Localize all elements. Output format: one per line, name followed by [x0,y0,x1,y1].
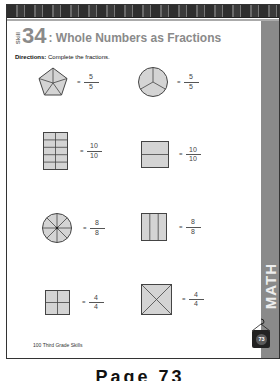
numerator: 10 [189,146,197,154]
skill-label: Skill [15,32,21,44]
numerator: 8 [95,219,99,227]
problem-item: = 4 4 [141,284,204,315]
denominator: 4 [94,303,98,311]
equals-sign: = [182,296,186,302]
square-quarters-shape-icon [45,290,70,315]
circle-thirds-shape-icon [137,66,169,98]
square-diagonals-shape-icon [141,284,172,315]
denominator: 8 [191,228,195,236]
fraction: = 5 5 [77,73,99,91]
equals-sign: = [77,79,81,85]
numerator: 5 [189,73,193,81]
fraction: = 4 4 [82,294,104,312]
book-title-footer: 100 Third Grade Skills [33,342,82,348]
page-number-badge: 73 [252,330,270,348]
page-number-hanger: 73 [250,318,276,354]
rectangle-thirds-shape-icon [141,213,167,241]
problem-item: = 5 5 [137,66,199,98]
equals-sign: = [82,299,86,305]
page-number: 73 [256,334,267,345]
problem-item: = 4 4 [45,290,104,315]
problem-item: = 10 10 [141,141,201,168]
numerator: 4 [194,291,198,299]
problem-item: = 8 8 [41,212,105,244]
fraction: = 10 10 [179,146,201,164]
numerator: 8 [191,218,195,226]
denominator: 5 [89,83,93,91]
denominator: 4 [194,300,198,308]
problem-item: = 8 8 [141,213,201,241]
denominator: 5 [189,83,193,91]
rectangle-halves-shape-icon [141,141,169,168]
fraction: = 4 4 [182,291,204,309]
numerator: 10 [90,142,98,150]
page-caption: Page 73 [0,367,280,381]
problem-item: = 10 10 [43,132,102,170]
problem-item: = 5 5 [37,66,99,98]
page-title: Skill 34 : Whole Numbers as Fractions [15,26,255,46]
top-band-divider [7,19,279,21]
problem-grid: = 5 5 = [15,60,255,320]
title-text: : Whole Numbers as Fractions [48,30,221,46]
skill-number: 34 [22,26,46,46]
equals-sign: = [179,151,183,157]
circle-eighths-shape-icon [41,212,73,244]
decorative-top-band [7,5,279,18]
fraction: = 10 10 [80,142,102,160]
denominator: 8 [95,229,99,237]
worksheet-content: Skill 34 : Whole Numbers as Fractions Di… [15,23,255,320]
fraction: = 5 5 [177,73,199,91]
numerator: 4 [94,294,98,302]
denominator: 10 [90,152,98,160]
fraction: = 8 8 [179,218,201,236]
equals-sign: = [83,225,87,231]
worksheet-page: MATH Skill 34 : Whole Numbers as Fractio… [6,4,280,359]
denominator: 10 [189,155,197,163]
equals-sign: = [177,79,181,85]
numerator: 5 [89,73,93,81]
rectangle-grid-shape-icon [43,132,68,170]
pentagon-shape-icon [37,66,69,98]
equals-sign: = [80,148,84,154]
side-tab-label: MATH [262,263,278,309]
equals-sign: = [179,224,183,230]
fraction: = 8 8 [83,219,105,237]
